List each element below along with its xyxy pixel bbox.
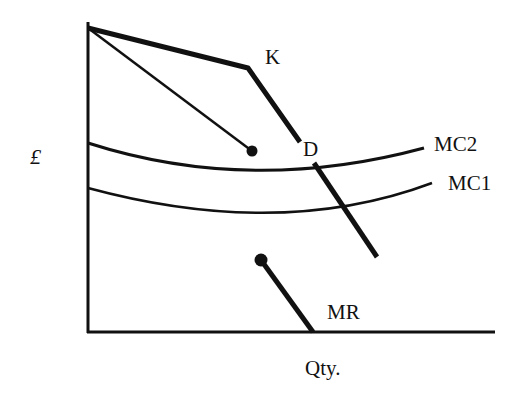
- x-axis-label: Qty.: [305, 358, 340, 379]
- mc2-curve: [88, 143, 424, 170]
- demand-label: D: [303, 139, 318, 160]
- mr-lower-endpoint-dot: [255, 254, 268, 267]
- diagram-canvas: [0, 0, 518, 406]
- kink-label: K: [265, 47, 280, 68]
- mr-upper-endpoint-dot: [247, 146, 258, 157]
- kinked-demand-diagram: £ Qty. K D MC2 MC1 MR: [0, 0, 518, 406]
- mc1-label: MC1: [448, 173, 491, 194]
- mc1-curve: [88, 183, 432, 213]
- y-axis-label: £: [30, 146, 41, 168]
- mr-lower-segment: [261, 260, 313, 332]
- mc2-label: MC2: [434, 134, 477, 155]
- mr-label: MR: [327, 302, 360, 323]
